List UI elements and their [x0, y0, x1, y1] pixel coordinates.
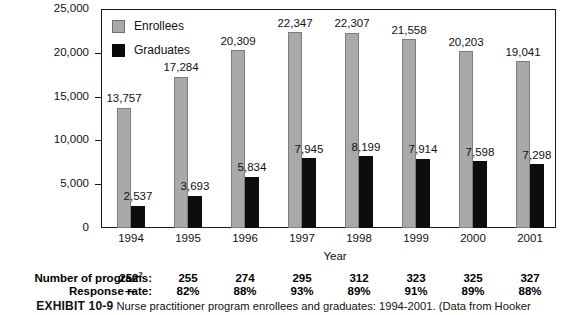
x-axis-tick-label: 2001 [502, 232, 558, 244]
table-cell: 325 [445, 272, 501, 285]
bar-group: 22,3477,945 [288, 9, 316, 228]
table-cell: 312 [331, 272, 387, 285]
x-axis-tick-label: 1998 [331, 232, 387, 244]
bar-graduates [473, 161, 487, 228]
bar-value-label-enrollees: 22,347 [272, 18, 318, 30]
bar-enrollees [516, 61, 530, 228]
y-axis-tick-label: 5,000 [60, 178, 89, 190]
bar-group: 22,3078,199 [345, 9, 373, 228]
bar-enrollees [117, 108, 131, 229]
table-cell: 327 [502, 272, 558, 285]
bar-value-label-enrollees: 17,284 [158, 62, 204, 74]
bar-group: 13,7572,537 [117, 9, 145, 228]
y-axis: 25,00020,00015,00010,0005,0000 [0, 0, 101, 240]
bar-group: 20,2037,598 [459, 9, 487, 228]
y-axis-tick-label: 25,000 [54, 3, 89, 15]
bar-graduates [188, 196, 202, 228]
table-cell: 323 [388, 272, 444, 285]
x-axis: 19941995199619971998199920002001 [101, 228, 556, 250]
table-cell: 2522 [103, 272, 159, 285]
bar-graduates [245, 177, 259, 228]
x-axis-title: Year [305, 250, 365, 262]
bar-value-label-enrollees: 21,558 [386, 25, 432, 37]
bar-value-label-enrollees: 20,203 [443, 37, 489, 49]
bar-graduates [416, 159, 430, 228]
bars-layer: 13,7572,53717,2843,69320,3095,83422,3477… [101, 9, 556, 228]
table-cell: 274 [217, 272, 273, 285]
bar-group: 20,3095,834 [231, 9, 259, 228]
x-axis-tick-label: 1997 [274, 232, 330, 244]
exhibit-number: EXHIBIT 10-9 [36, 299, 113, 313]
table-row: Number of programs: 25222552742953123233… [0, 272, 567, 285]
y-axis-tick-label: 10,000 [54, 134, 89, 146]
bar-value-label-graduates: 7,914 [400, 144, 446, 156]
table-cell: 82% [160, 285, 216, 298]
table-cell: — [103, 285, 159, 298]
table-cell: 88% [502, 285, 558, 298]
bar-value-label-graduates: 7,598 [457, 147, 503, 159]
table-cell: 93% [274, 285, 330, 298]
caption-text: Nurse practitioner program enrollees and… [117, 300, 531, 312]
x-axis-tick-label: 1996 [217, 232, 273, 244]
table-cell: 91% [388, 285, 444, 298]
bar-value-label-graduates: 7,298 [514, 150, 560, 162]
bar-value-label-enrollees: 22,307 [329, 18, 375, 30]
bar-graduates [530, 164, 544, 228]
table-cell: 89% [445, 285, 501, 298]
table-cell: 89% [331, 285, 387, 298]
bar-enrollees [345, 33, 359, 228]
bar-enrollees [174, 77, 188, 228]
bar-group: 21,5587,914 [402, 9, 430, 228]
exhibit-figure: 25,00020,00015,00010,0005,0000 Enrollees… [0, 0, 567, 315]
bar-value-label-graduates: 7,945 [286, 144, 332, 156]
bar-value-label-graduates: 5,834 [229, 162, 275, 174]
bar-value-label-graduates: 2,537 [115, 191, 161, 203]
bar-value-label-graduates: 8,199 [343, 142, 389, 154]
bar-graduates [359, 156, 373, 228]
bar-enrollees [459, 51, 473, 228]
bar-graduates [302, 158, 316, 228]
x-axis-tick-label: 1994 [103, 232, 159, 244]
table-cell: 295 [274, 272, 330, 285]
bar-enrollees [288, 32, 302, 228]
y-axis-tick-label: 20,000 [54, 47, 89, 59]
exhibit-caption: EXHIBIT 10-9 Nurse practitioner program … [0, 299, 567, 313]
x-axis-tick-label: 1995 [160, 232, 216, 244]
bottom-data-table: Number of programs: 25222552742953123233… [0, 272, 567, 298]
bar-value-label-enrollees: 13,757 [101, 93, 147, 105]
table-cell: 88% [217, 285, 273, 298]
table-row: Response rate: —82%88%93%89%91%89%88% [0, 285, 567, 298]
bar-enrollees [402, 39, 416, 228]
y-axis-tick-label: 0 [83, 222, 89, 234]
bar-graduates [131, 206, 145, 228]
table-cell: 255 [160, 272, 216, 285]
bar-value-label-enrollees: 19,041 [500, 47, 546, 59]
bar-group: 17,2843,693 [174, 9, 202, 228]
bar-value-label-graduates: 3,693 [172, 181, 218, 193]
x-axis-tick-label: 2000 [445, 232, 501, 244]
bar-group: 19,0417,298 [516, 9, 544, 228]
bar-enrollees [231, 50, 245, 228]
x-axis-tick-label: 1999 [388, 232, 444, 244]
bar-value-label-enrollees: 20,309 [215, 36, 261, 48]
y-axis-tick-label: 15,000 [54, 91, 89, 103]
